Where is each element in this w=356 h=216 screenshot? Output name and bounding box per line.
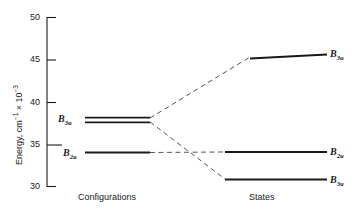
y-tick-label-50: 50 (24, 12, 40, 22)
level-label-state-b3u-upper-letter: B (330, 48, 337, 59)
y-tick-label-40: 40 (24, 97, 40, 107)
column-label-configurations: Configurations (78, 192, 136, 202)
level-label-state-b2u-subscript: 2u (337, 152, 344, 159)
column-label-states: States (249, 192, 275, 202)
level-label-state-b3u-lower: B3u (330, 174, 344, 185)
level-label-state-b3u-upper-subscript: 3u (337, 54, 344, 61)
y-axis-title: Energy, cm−1 × 10−3 (14, 85, 24, 165)
correlation-line-config-b3u-to-state-b3u-upper (150, 57, 250, 118)
y-axis-title-mid: × 10 (14, 92, 24, 112)
y-axis-title-main: Energy, cm (14, 120, 24, 165)
energy-level-correlation-diagram: 50 45 40 35 30 Energy, cm−1 × 10−3 B3u B… (0, 0, 356, 216)
y-axis-title-exponent-2: −3 (12, 85, 19, 92)
level-label-config-b2u-letter: B (63, 147, 70, 158)
level-label-state-b3u-lower-letter: B (330, 174, 337, 185)
level-label-state-b3u-lower-subscript: 3u (337, 180, 344, 187)
level-label-config-b2u-subscript: 2u (70, 153, 77, 160)
level-label-state-b3u-upper: B3u (330, 48, 344, 59)
correlation-line-config-b2u-to-state-b2u (150, 152, 225, 153)
correlation-line-config-b3u-to-state-b3u-lower (150, 122, 225, 179)
level-label-state-b2u-letter: B (330, 146, 337, 157)
y-tick-label-30: 30 (24, 181, 40, 191)
plot-canvas (0, 0, 356, 216)
level-line-state-b3u-upper (250, 55, 327, 59)
level-label-state-b2u: B2u (330, 146, 344, 157)
y-axis-title-exponent-1: −1 (12, 113, 19, 120)
level-label-config-b3u-subscript: 3u (65, 119, 72, 126)
y-tick-label-35: 35 (24, 139, 40, 149)
y-tick-label-45: 45 (24, 54, 40, 64)
level-label-config-b2u: B2u (63, 147, 77, 158)
level-label-config-b3u-letter: B (58, 113, 65, 124)
level-label-config-b3u: B3u (58, 113, 72, 124)
